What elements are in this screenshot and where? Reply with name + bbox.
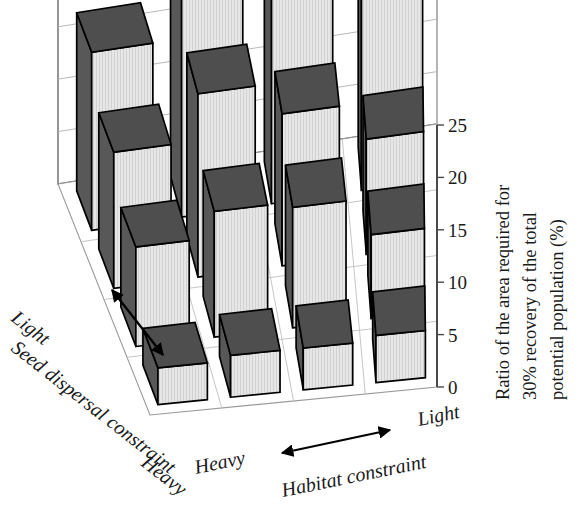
bar-top-face [363, 87, 424, 139]
bar-top-face [275, 63, 339, 114]
bar [373, 286, 426, 383]
bar-front-face [231, 350, 280, 397]
y-tick-labels: 0510152025 [448, 115, 467, 398]
y-tick-label-15: 15 [448, 220, 467, 241]
x-axis-title: Habitat constraint [278, 450, 428, 501]
bar-top-face [296, 300, 353, 348]
y-tick-label-0: 0 [448, 377, 458, 398]
y-tick-label-10: 10 [448, 272, 467, 293]
bar-top-face [187, 44, 255, 93]
y-tick-label-25: 25 [448, 115, 467, 136]
bar-top-face [220, 309, 281, 356]
x-axis-label-heavy: Heavy [191, 446, 247, 479]
x-axis-annotations: HeavyLightHabitat constraint [191, 400, 461, 501]
bar [296, 300, 353, 390]
bar [220, 309, 281, 398]
bar-side-face [171, 0, 182, 217]
bar-top-face [286, 158, 347, 207]
y-tick-label-5: 5 [448, 325, 458, 346]
bar-chart-3d: 0510152025 Ratio of the area required fo… [0, 0, 580, 527]
bar-front-face [158, 363, 207, 405]
x-axis-arrow [282, 430, 390, 453]
y-axis [437, 125, 444, 387]
bar-front-face [303, 343, 352, 390]
bar-top-face [368, 184, 425, 235]
bar-top-face [77, 3, 153, 52]
y-axis-title: Ratio of the area required for30% recove… [493, 185, 568, 400]
bar-front-face [376, 330, 425, 382]
y-tick-label-20: 20 [448, 167, 467, 188]
bar [143, 323, 207, 405]
bar-top-face [373, 286, 426, 335]
y-axis-title-line-1: Ratio of the area required for [493, 185, 513, 400]
x-axis-label-light: Light [414, 400, 461, 431]
y-axis-title-line-2: 30% recovery of the total [520, 212, 540, 400]
bar-top-face [203, 163, 267, 211]
y-axis-title-line-3: potential population (%) [547, 219, 568, 400]
figure-container: 0510152025 Ratio of the area required fo… [0, 0, 580, 527]
